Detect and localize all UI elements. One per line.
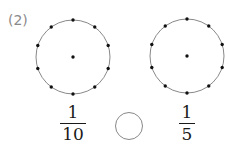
- left-numerator: 1: [53, 104, 93, 123]
- right-numerator: 1: [167, 104, 207, 123]
- right-circle-diagram: [150, 17, 224, 94]
- right-circle-point: [164, 24, 167, 27]
- right-circle-point: [220, 66, 223, 69]
- right-circle-point: [207, 84, 210, 87]
- left-circle-diagram: [36, 18, 110, 95]
- right-fraction: 1 5: [167, 104, 207, 143]
- left-denominator: 10: [53, 124, 93, 143]
- left-circle-point: [50, 25, 53, 28]
- left-circle-point: [36, 44, 39, 47]
- right-circle-point: [150, 43, 153, 46]
- right-center-point: [185, 54, 188, 57]
- left-circle-point: [106, 44, 109, 47]
- right-circle-point: [207, 24, 210, 27]
- left-circle-point: [71, 92, 74, 95]
- right-circle-point: [150, 66, 153, 69]
- comparison-answer-circle[interactable]: [115, 112, 143, 140]
- left-fraction: 1 10: [53, 104, 93, 143]
- left-circle-point: [106, 67, 109, 70]
- right-circle-point: [220, 43, 223, 46]
- right-circle-point: [164, 84, 167, 87]
- left-circle-point: [93, 25, 96, 28]
- left-center-point: [71, 55, 74, 58]
- left-circle-point: [71, 18, 74, 21]
- right-circle-point: [185, 17, 188, 20]
- left-circle-point: [93, 85, 96, 88]
- left-circle-point: [50, 85, 53, 88]
- right-circle-point: [185, 91, 188, 94]
- right-denominator: 5: [167, 124, 207, 143]
- left-circle-point: [36, 67, 39, 70]
